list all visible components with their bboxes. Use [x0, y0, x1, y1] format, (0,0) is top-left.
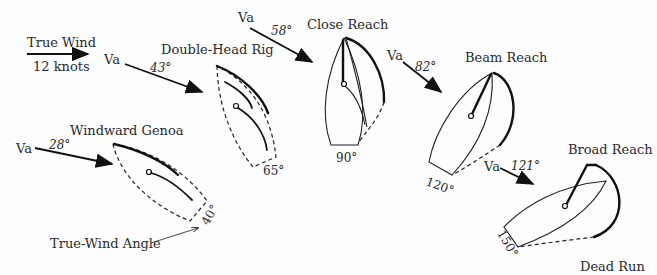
mast-icon: [469, 114, 474, 119]
spinnaker-foot: [358, 102, 384, 143]
hull-outline: [113, 144, 207, 221]
main-sail: [345, 86, 365, 125]
mast-icon: [563, 204, 568, 209]
true-wind-speed: 12 knots: [33, 59, 90, 74]
boat-close-reach: Close Reach Va 58° 90°: [237, 10, 389, 165]
boat-broad-reach: Broad Reach Va 121° 150°: [483, 142, 653, 260]
true-wind-angle-label: True-Wind Angle: [50, 236, 161, 251]
apparent-angle: 82°: [415, 60, 436, 74]
genoa-sail: [217, 66, 268, 113]
genoa-sail: [114, 144, 178, 175]
apparent-wind-arrow-icon: [35, 148, 112, 164]
hull-outline: [217, 66, 276, 167]
point-name: Close Reach: [307, 17, 389, 32]
main-sail: [238, 108, 267, 150]
true-angle: 65°: [263, 164, 284, 178]
apparent-angle: 58°: [271, 24, 292, 38]
point-name: Windward Genoa: [70, 123, 184, 138]
true-angle: 150°: [494, 228, 521, 260]
va-label: Va: [103, 52, 120, 67]
mast-icon: [342, 82, 347, 87]
va-label: Va: [15, 141, 32, 156]
dead-run-label: Dead Run: [580, 259, 645, 274]
spinnaker-sail: [494, 73, 513, 145]
point-name: Beam Reach: [465, 50, 548, 65]
true-angle: 120°: [424, 175, 456, 198]
point-name: Broad Reach: [568, 142, 653, 157]
boat-windward-genoa: Windward Genoa Va 28° 40°: [15, 123, 221, 228]
va-label: Va: [483, 159, 500, 174]
pole-line: [566, 165, 587, 205]
apparent-angle: 43°: [149, 61, 171, 75]
true-wind-indicator: True Wind 12 knots: [27, 35, 96, 74]
boat-beam-reach: Beam Reach Va 82° 120°: [386, 48, 548, 198]
points-of-sail-diagram: True Wind 12 knots Windward Genoa Va 28°…: [0, 0, 657, 275]
true-wind-label: True Wind: [27, 35, 96, 50]
true-angle: 40°: [198, 202, 221, 227]
true-angle: 90°: [336, 151, 357, 165]
spinnaker-sail: [594, 165, 619, 237]
boat-double-head-rig: Double-Head Rig Va 43° 65°: [103, 42, 284, 178]
apparent-angle: 121°: [511, 159, 540, 173]
hull-outline: [429, 73, 492, 175]
point-name: Double-Head Rig: [161, 42, 274, 57]
true-wind-angle-callout: True-Wind Angle: [50, 228, 198, 251]
jib-leech: [346, 38, 367, 127]
va-label: Va: [237, 10, 254, 25]
va-label: Va: [386, 48, 403, 63]
apparent-angle: 28°: [48, 138, 70, 152]
